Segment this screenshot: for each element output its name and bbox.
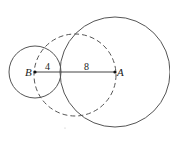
length-label-4: 4 <box>45 61 50 72</box>
point-a-label: A <box>116 66 124 78</box>
diagram-svg: B A 4 8 <box>0 0 170 146</box>
length-label-8: 8 <box>84 61 89 72</box>
geometry-diagram: B A 4 8 <box>0 0 170 146</box>
stray-mark <box>64 127 65 128</box>
dashed-circle <box>34 34 116 116</box>
point-b-label: B <box>25 66 32 78</box>
point-b-dot <box>33 70 36 73</box>
